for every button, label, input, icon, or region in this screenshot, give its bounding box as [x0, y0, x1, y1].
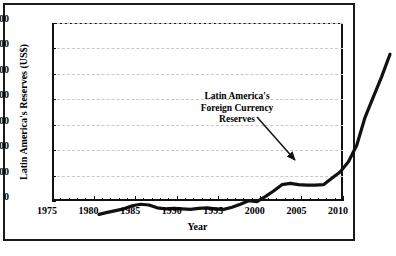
y-tick-label-300: 300 [0, 114, 9, 125]
x-tick-minor-2007 [318, 198, 319, 201]
x-tick-minor-2003 [285, 198, 286, 201]
annotation-line-2: Foreign Currency [181, 103, 293, 115]
x-tick-major-1975 [52, 196, 53, 201]
x-tick-minor-1984 [127, 198, 128, 201]
x-tick-major-1990 [177, 196, 178, 201]
y-tick-100 [52, 176, 56, 177]
x-tick-minor-1982 [110, 198, 111, 201]
y-tick-label-400: 400 [0, 89, 9, 100]
x-tick-major-1985 [135, 196, 136, 201]
y-tick-0 [52, 201, 56, 202]
y-tick-300 [52, 125, 56, 126]
x-tick-minor-2001 [268, 198, 269, 201]
x-axis-title: Year [52, 221, 343, 232]
x-tick-minor-1976 [60, 198, 61, 201]
y-tick-label-600: 600 [0, 38, 9, 49]
x-tick-minor-2002 [276, 198, 277, 201]
y-tick-label-700: 700 [0, 13, 9, 24]
x-tick-minor-2008 [326, 198, 327, 201]
y-tick-label-0: 0 [0, 191, 9, 202]
y-axis-title: Latin America's Reserves (US$) [17, 23, 31, 201]
x-tick-minor-1996 [227, 198, 228, 201]
x-tick-label-1985: 1985 [120, 205, 140, 216]
x-tick-label-1995: 1995 [203, 205, 223, 216]
gridline-200 [52, 150, 343, 151]
x-tick-minor-1999 [252, 198, 253, 201]
y-tick-500 [52, 74, 56, 75]
x-tick-minor-1979 [85, 198, 86, 201]
y-tick-label-500: 500 [0, 63, 9, 74]
y-tick-label-100: 100 [0, 165, 9, 176]
x-tick-minor-1986 [143, 198, 144, 201]
x-tick-label-2005: 2005 [286, 205, 306, 216]
x-tick-minor-1991 [185, 198, 186, 201]
x-tick-minor-1992 [193, 198, 194, 201]
gridline-600 [52, 48, 343, 49]
x-tick-label-2000: 2000 [245, 205, 265, 216]
gridline-100 [52, 176, 343, 177]
gridline-500 [52, 74, 343, 75]
x-tick-label-1975: 1975 [37, 205, 57, 216]
x-tick-minor-2006 [310, 198, 311, 201]
y-tick-700 [52, 23, 56, 24]
x-tick-minor-2009 [335, 198, 336, 201]
x-axis-line [52, 199, 343, 201]
x-tick-label-1990: 1990 [162, 205, 182, 216]
x-tick-minor-1981 [102, 198, 103, 201]
x-tick-minor-1994 [210, 198, 211, 201]
x-tick-major-1980 [94, 196, 95, 201]
x-tick-minor-1997 [235, 198, 236, 201]
x-tick-minor-2004 [293, 198, 294, 201]
annotation-line-3: Reserves [181, 114, 293, 126]
x-tick-minor-1988 [160, 198, 161, 201]
x-tick-major-2010 [343, 196, 344, 201]
y-axis-line [52, 23, 54, 201]
x-tick-label-1980: 1980 [79, 205, 99, 216]
y-tick-label-200: 200 [0, 140, 9, 151]
right-axis-line [341, 23, 343, 201]
annotation-line-1: Latin America's [181, 91, 293, 103]
x-tick-label-2010: 2010 [328, 205, 348, 216]
x-tick-minor-1993 [202, 198, 203, 201]
figure-frame: Latin America's Reserves (US$) 010020030… [3, 3, 355, 241]
y-tick-600 [52, 48, 56, 49]
gridline-700 [52, 23, 343, 24]
y-tick-200 [52, 150, 56, 151]
x-tick-minor-1998 [243, 198, 244, 201]
x-tick-major-1995 [218, 196, 219, 201]
series-annotation-label: Latin America's Foreign Currency Reserve… [181, 91, 293, 126]
x-tick-minor-1989 [168, 198, 169, 201]
x-tick-minor-1983 [119, 198, 120, 201]
x-tick-major-2000 [260, 196, 261, 201]
x-tick-minor-1977 [69, 198, 70, 201]
x-tick-major-2005 [301, 196, 302, 201]
x-tick-minor-1978 [77, 198, 78, 201]
x-tick-minor-1987 [152, 198, 153, 201]
y-tick-400 [52, 99, 56, 100]
